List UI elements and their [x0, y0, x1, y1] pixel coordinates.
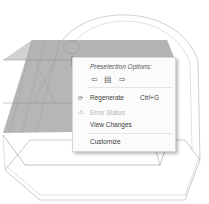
regenerate-icon: ⟳	[76, 94, 84, 102]
menu-item-customize[interactable]: Customize	[90, 137, 171, 147]
shortcut-label: Ctrl+G	[140, 93, 159, 103]
context-menu: Preselection Options: ⇦ ▤ ⇨ ⟳ Regenerate…	[72, 57, 176, 152]
menu-separator	[88, 87, 173, 88]
arrow-right-icon[interactable]: ⇨	[118, 75, 126, 83]
menu-item-regenerate[interactable]: Regenerate Ctrl+G	[90, 93, 171, 103]
preselection-arrows: ⇦ ▤ ⇨	[90, 75, 126, 83]
menu-item-view-changes[interactable]: View Changes	[90, 120, 171, 130]
menu-separator	[88, 133, 173, 134]
preselection-options-label: Preselection Options:	[90, 63, 152, 70]
arrow-left-icon[interactable]: ⇦	[90, 75, 98, 83]
select-filter-icon[interactable]: ▤	[104, 75, 112, 83]
error-status-icon: ⚠	[76, 108, 84, 116]
menu-item-error-status[interactable]: Error Status	[90, 108, 171, 118]
